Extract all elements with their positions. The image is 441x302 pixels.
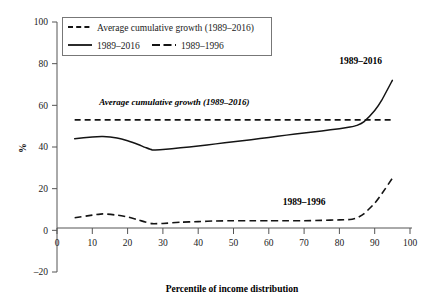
annotation-1989-2016: 1989–2016 bbox=[339, 56, 382, 66]
x-tick-label: 70 bbox=[299, 238, 309, 248]
series-line-1989-2016 bbox=[75, 80, 393, 150]
legend-label-1989-2016: 1989–2016 bbox=[97, 41, 140, 51]
y-tick-label: 60 bbox=[39, 101, 49, 111]
x-tick-label: 30 bbox=[158, 238, 168, 248]
y-tick-label: 100 bbox=[34, 17, 49, 27]
x-tick-label: 100 bbox=[403, 238, 418, 248]
x-tick-label: 20 bbox=[123, 238, 133, 248]
line-chart: 100806040200–20 0102030405060708090100 %… bbox=[0, 0, 441, 302]
x-tick-label: 90 bbox=[370, 238, 380, 248]
y-axis-ticks: 100806040200–20 bbox=[33, 17, 57, 277]
annotation-1989-1996: 1989–1996 bbox=[283, 197, 326, 207]
x-axis-title: Percentile of income distribution bbox=[166, 284, 299, 294]
y-axis-title: % bbox=[18, 143, 28, 153]
y-tick-label: 20 bbox=[39, 184, 49, 194]
chart-legend: Average cumulative growth (1989–2016) 19… bbox=[63, 18, 272, 56]
y-tick-label: 40 bbox=[39, 142, 49, 152]
x-tick-label: 10 bbox=[88, 238, 98, 248]
annotation-average-growth: Average cumulative growth (1989–2016) bbox=[98, 97, 249, 107]
legend-label-1989-1996: 1989–1996 bbox=[181, 41, 224, 51]
x-tick-label: 0 bbox=[55, 238, 60, 248]
legend-label-average-growth: Average cumulative growth (1989–2016) bbox=[97, 23, 254, 34]
x-tick-label: 40 bbox=[193, 238, 203, 248]
series-line-1989-1996 bbox=[75, 178, 393, 223]
x-tick-label: 50 bbox=[229, 238, 239, 248]
x-axis-ticks: 0102030405060708090100 bbox=[55, 228, 418, 248]
y-tick-label: –20 bbox=[33, 267, 49, 277]
y-tick-label: 80 bbox=[39, 59, 49, 69]
y-tick-label: 0 bbox=[43, 226, 48, 236]
x-tick-label: 60 bbox=[264, 238, 274, 248]
x-tick-label: 80 bbox=[335, 238, 345, 248]
chart-figure: 100806040200–20 0102030405060708090100 %… bbox=[0, 0, 441, 302]
